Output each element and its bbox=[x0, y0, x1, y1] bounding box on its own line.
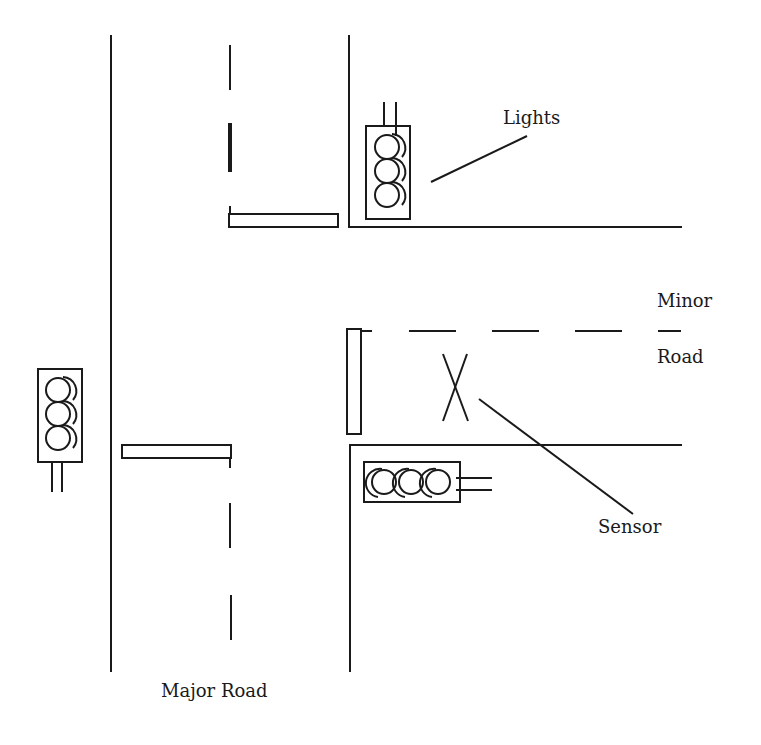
stop-line-northbound bbox=[122, 445, 231, 458]
minor-road-label-line1: Minor bbox=[657, 290, 712, 311]
traffic-light-icon-major-road-east bbox=[364, 462, 492, 502]
lights-label: Lights bbox=[503, 107, 560, 128]
lights-leader-line bbox=[431, 136, 527, 182]
minor-road-label-line2: Road bbox=[657, 346, 704, 367]
intersection-diagram bbox=[0, 0, 761, 745]
stop-line-minor-road bbox=[347, 329, 361, 434]
major-road-label: Major Road bbox=[161, 680, 268, 701]
sensor-icon bbox=[443, 354, 468, 421]
sensor-leader-line bbox=[479, 399, 633, 514]
traffic-light-icon-major-road bbox=[38, 369, 82, 492]
stop-line-southbound bbox=[229, 214, 338, 227]
traffic-light-icon-minor-road bbox=[366, 102, 410, 219]
sensor-label: Sensor bbox=[598, 516, 661, 537]
